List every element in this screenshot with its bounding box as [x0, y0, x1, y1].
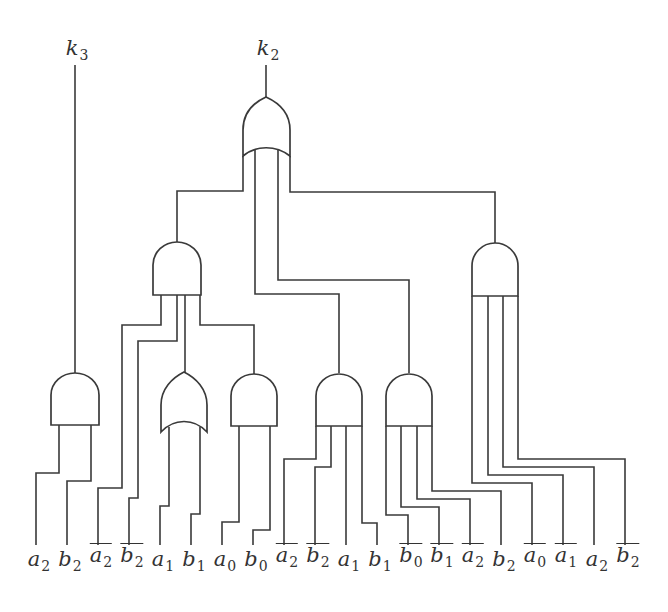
wire-right-and-in4 [518, 296, 625, 545]
circuit-drawing [0, 0, 668, 612]
and-gate-mid [316, 374, 362, 426]
and-gate-b0b1 [386, 374, 432, 426]
output-label-k2: k2 [257, 38, 280, 62]
input-label-not-a2: a2 [276, 543, 298, 569]
wire-or-a1b1-in2 [191, 427, 200, 545]
or-gate-k2 [243, 97, 290, 156]
input-label-not-a2: a2 [462, 543, 484, 569]
and-gate-a0b0 [231, 374, 277, 426]
wire-or-k2-in1 [177, 156, 243, 243]
wire-or-k2-in4 [290, 156, 495, 243]
wire-and-k3-in1 [36, 425, 59, 545]
wire-and-a0b0-in2 [253, 426, 270, 545]
wire-right-and-in1 [472, 296, 532, 545]
input-label-not-b2: b2 [120, 543, 143, 569]
wire-and-a0b0-in1 [222, 426, 239, 545]
wire-right-and-in3 [503, 296, 594, 545]
wire-and-b-in3 [417, 426, 470, 545]
and-gate-left-big [153, 242, 201, 295]
or-gate-a1b1 [161, 372, 207, 432]
logic-circuit-diagram: k3 k2 a2b2a2b2a1b1a0b0a2b2a1b1b0b1a2b2a0… [0, 0, 668, 612]
input-label-not-b2: b2 [306, 543, 329, 569]
input-label-a2: a2 [28, 549, 50, 573]
input-label-not-a2: a2 [90, 543, 112, 569]
wire-and-mid-in4 [362, 426, 377, 545]
wire-or-a1b1-in1 [160, 427, 169, 545]
input-label-not-b2: b2 [616, 543, 639, 569]
wire-and-b-in2 [401, 426, 439, 545]
wire-and-mid-in1 [284, 426, 316, 545]
input-label-b1: b1 [182, 549, 205, 573]
input-label-not-a1: a1 [555, 543, 577, 569]
input-label-not-a0: a0 [524, 543, 546, 569]
input-label-not-b0: b0 [399, 543, 422, 569]
wire-and-mid-in2 [315, 426, 331, 545]
input-label-b0: b0 [244, 549, 267, 573]
output-label-k3: k3 [66, 38, 89, 62]
input-label-b2: b2 [58, 549, 81, 573]
wire-and-k3-in2 [67, 425, 91, 545]
wire-or-k2-in3 [278, 150, 409, 373]
input-label-a1: a1 [152, 549, 174, 573]
wire-and-b-in1 [386, 426, 408, 545]
input-label-b1: b1 [368, 549, 391, 573]
wire-left-and-in4 [200, 295, 254, 374]
and-gate-k3 [51, 373, 99, 425]
wire-or-k2-in2 [255, 150, 339, 373]
input-label-a1: a1 [338, 549, 360, 573]
input-label-b2: b2 [492, 549, 515, 573]
wire-right-and-in2 [488, 296, 563, 545]
input-label-a2: a2 [586, 549, 608, 573]
input-label-a0: a0 [214, 549, 236, 573]
wire-and-b-in4 [432, 426, 501, 545]
and-gate-right-big [472, 243, 518, 296]
input-label-not-b1: b1 [430, 543, 453, 569]
